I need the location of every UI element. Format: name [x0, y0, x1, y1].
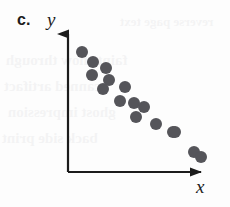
data-point [195, 151, 207, 163]
part-label: c. [17, 11, 31, 29]
data-point [100, 62, 112, 74]
data-point [76, 46, 88, 58]
data-point [86, 69, 98, 81]
data-point [97, 83, 109, 95]
scatter-plot-figure: reverse page textfaint show throughscann… [0, 0, 230, 207]
data-point [114, 95, 126, 107]
data-point-group [76, 46, 207, 163]
data-point [119, 81, 131, 93]
y-axis-label: y [47, 9, 55, 31]
x-axis-label: x [196, 176, 204, 198]
data-point [130, 111, 142, 123]
data-point [150, 118, 162, 130]
data-point [138, 101, 150, 113]
data-point [169, 126, 181, 138]
data-point [87, 56, 99, 68]
